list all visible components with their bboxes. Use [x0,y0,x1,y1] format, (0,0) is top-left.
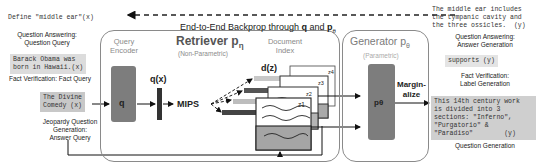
generator-subtitle: (Parametric) [363,52,399,59]
retriever-title: Retriever pη [176,34,244,50]
output-question-gen: This 14th century work is divided into 3… [431,96,536,140]
query-encoder-label: Query Encoder [106,37,142,55]
input-fact-caption: Fact Verification: Fact Query [0,75,100,83]
input-jeopardy-caption: Jeopardy Question Generation: Answer Que… [30,118,110,142]
output-qa: The middle ear includes the tympanic cav… [432,6,526,30]
input-qa: Define "middle ear"(x) [8,14,94,22]
backprop-label: End-to-End Backprop through q and pθ [180,22,336,34]
input-qa-caption: Question Answering: Question Query [0,31,94,47]
generator-block-label: pθ [374,98,383,107]
marginalize-label: Margin- alize [397,80,426,100]
generator-title: Generator pθ [350,35,410,49]
input-fact: Barack Obama was born in Hawaii.(x) [10,54,86,74]
doc-z1-label: z1 [298,101,305,108]
q-block-label: q [119,98,125,108]
document-index-label: Document Index [260,37,310,55]
dz-label: d(z) [261,63,277,73]
output-fact: supports (y) [445,55,498,67]
qx-label: q(x) [150,74,167,84]
doc-z3-label: z3 [318,80,324,86]
output-fact-caption: Fact Verification: Label Generation [440,72,530,88]
output-qa-caption: Question Answering: Answer Generation [440,33,530,49]
doc-z2-label: z2 [306,91,312,97]
doc-z4-label: z4 [328,69,334,75]
output-question-gen-caption: Question Generation [440,142,530,150]
input-jeopardy: The Divine Comedy (x) [40,92,85,112]
retriever-subtitle: (Non-Parametric) [178,50,228,57]
mips-label: MIPS [177,99,199,109]
